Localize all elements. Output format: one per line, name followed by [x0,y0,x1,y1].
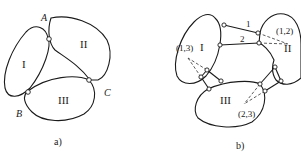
joint-c [87,78,92,83]
label-link-1: 1 [246,19,251,29]
label-ic-1-2: (1,2) [276,26,293,36]
caption-b: b) [236,140,244,152]
joint [263,89,267,93]
joint [199,75,203,79]
joint [218,43,222,47]
joint [279,79,283,83]
label-ic-1-3: (1,3) [176,43,193,53]
label-joint-a: A [40,12,48,23]
joint-a [47,37,52,42]
dash-1-3b [188,58,201,77]
kinematic-diagram: A B C I II III a) [0,0,301,158]
label-body-1: I [200,41,204,53]
caption-a: a) [54,136,62,148]
joint [257,41,261,45]
panel-b: 1 2 (1,2) (1,3) (2,3) I II III b) [176,14,301,152]
dash-1-3a [188,58,207,70]
joint-b [26,90,31,95]
body-1-outline [4,27,49,96]
joint [219,79,223,83]
joint [205,68,209,72]
label-body-3: III [58,94,69,106]
link-iii-ii-a [260,67,275,84]
label-ic-2-3: (2,3) [238,109,255,119]
joint [222,23,226,27]
dash-2-3a [244,84,260,104]
joint [273,65,277,69]
link-iii-ii-b [265,81,281,91]
label-joint-c: C [104,87,111,98]
joint [207,87,211,91]
label-body-2: II [284,42,292,54]
joint [258,82,262,86]
dash-2-3b [244,91,265,104]
link-i-iii-a [207,70,221,81]
label-link-2: 2 [240,34,245,44]
label-joint-b: B [16,108,22,119]
label-body-2: II [80,38,88,50]
link-1 [224,25,258,33]
panel-a: A B C I II III a) [4,12,111,148]
body-2-outline [259,14,301,85]
label-body-1: I [22,58,26,70]
label-body-3: III [220,94,231,106]
joint [256,31,260,35]
